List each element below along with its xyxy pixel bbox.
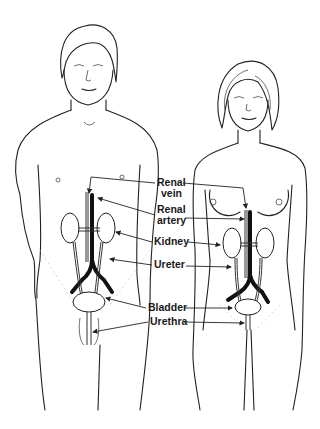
male-torso-left bbox=[16, 110, 71, 410]
female-ureter-right bbox=[254, 258, 262, 305]
label-bladder: Bladder bbox=[148, 301, 187, 313]
pointer-ureter-male bbox=[110, 259, 152, 265]
male-hair bbox=[61, 25, 118, 82]
pointer-kidney-male bbox=[116, 232, 152, 242]
pointer-ureter-female bbox=[186, 266, 231, 267]
female-bladder bbox=[235, 299, 261, 315]
female-kidney-left bbox=[223, 228, 241, 258]
male-urethra bbox=[87, 312, 91, 345]
female-urethra bbox=[246, 315, 250, 330]
label-urethra: Urethra bbox=[150, 315, 188, 327]
female-torso-right bbox=[260, 143, 307, 410]
female-torso-left bbox=[193, 143, 238, 410]
female-face bbox=[228, 100, 268, 131]
male-figure bbox=[16, 25, 159, 410]
female-ureter-left bbox=[235, 258, 242, 305]
female-figure bbox=[193, 61, 307, 410]
pointer-urethra-female bbox=[184, 322, 244, 323]
pointer-kidney-female bbox=[188, 242, 220, 245]
female-urinary-system bbox=[223, 210, 274, 330]
pointer-renal-artery-male bbox=[98, 198, 155, 215]
urinary-system-diagram: Renal vein Renal artery Kidney Ureter Bl… bbox=[0, 0, 320, 429]
male-urinary-system bbox=[61, 192, 115, 345]
label-ureter: Ureter bbox=[154, 258, 185, 270]
label-renal-artery-line2: artery bbox=[157, 214, 186, 226]
pointer-urethra-male bbox=[93, 322, 148, 332]
labels: Renal vein Renal artery Kidney Ureter Bl… bbox=[89, 176, 246, 332]
male-kidney-left bbox=[61, 213, 79, 243]
label-kidney: Kidney bbox=[154, 235, 189, 247]
male-bladder bbox=[73, 292, 105, 312]
label-renal-vein-line2: vein bbox=[161, 187, 182, 199]
female-kidney-right bbox=[256, 228, 274, 258]
pointer-renal-vein-male bbox=[89, 177, 155, 193]
